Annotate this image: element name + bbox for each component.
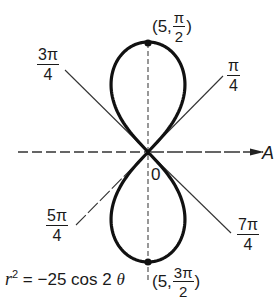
origin-point [146, 150, 150, 154]
point-bottom [144, 258, 151, 265]
denominator: 4 [244, 235, 253, 253]
lemniscate-diagram: A 0 3π 4 π 4 5π 4 7π 4 (5, π 2 ) r2 = −2… [0, 0, 277, 305]
polar-axis-label: A [262, 143, 274, 164]
point-suffix: ) [195, 272, 201, 292]
point-angle: 3π 2 [173, 265, 194, 299]
angle-label-5pi-4: 5π 4 [46, 208, 68, 244]
angle-label-pi-4: π 4 [227, 58, 240, 94]
numerator: π [227, 58, 240, 76]
origin-label: 0 [151, 166, 160, 183]
denominator: 2 [179, 282, 187, 299]
denominator: 4 [53, 226, 62, 244]
equation-rhs: = −25 cos 2 [18, 270, 116, 289]
angle-label-3pi-4: 3π 4 [37, 47, 59, 83]
numerator: 3π [173, 265, 194, 282]
point-label-top: (5, π 2 ) [152, 10, 192, 44]
numerator: 7π [237, 217, 259, 235]
point-suffix: ) [186, 17, 192, 37]
point-prefix: (5, [152, 17, 172, 37]
point-angle: π 2 [173, 10, 185, 44]
point-prefix: (5, [152, 272, 172, 292]
point-label-bottom: (5, 3π 2 ) [152, 265, 200, 299]
angle-label-7pi-4: 7π 4 [237, 217, 259, 253]
point-top [144, 39, 151, 46]
denominator: 4 [229, 76, 238, 94]
numerator: π [173, 10, 185, 27]
equation-theta: θ [116, 270, 124, 289]
numerator: 5π [46, 208, 68, 226]
denominator: 4 [44, 65, 53, 83]
equation-r: r [5, 269, 12, 289]
equation-label: r2 = −25 cos 2 θ [5, 268, 125, 290]
denominator: 2 [175, 27, 183, 44]
numerator: 3π [37, 47, 59, 65]
